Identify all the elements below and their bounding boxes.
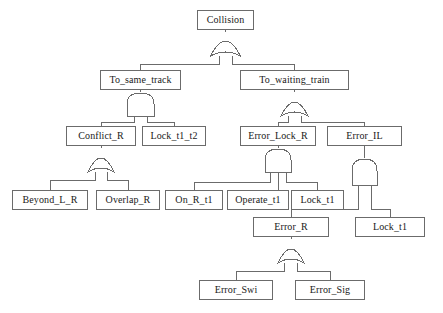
node-to-same-track[interactable]: To_same_track — [100, 70, 181, 90]
node-label: Error_R — [274, 222, 307, 232]
node-label: To_waiting_train — [259, 75, 329, 85]
node-label: Overlap_R — [106, 195, 151, 205]
node-label: To_same_track — [109, 75, 171, 85]
edge-error-r-to-error-swi — [236, 263, 284, 280]
node-lock-t1-a[interactable]: Lock_t1 — [291, 190, 344, 210]
node-label: Operate_t1 — [235, 195, 280, 205]
node-label: Collision — [207, 15, 245, 25]
node-lock-t1-t2[interactable]: Lock_t1_t2 — [142, 126, 206, 146]
edge-error-lock-r-to-on-r-t1 — [194, 172, 270, 190]
edge-conflict-r-to-beyond-l-r — [50, 172, 95, 190]
node-label: Error_Lock_R — [248, 131, 308, 141]
and-gate-error-il — [352, 159, 377, 185]
connector-layer — [0, 0, 443, 313]
node-label: Beyond_L_R — [23, 195, 78, 205]
node-on-r-t1[interactable]: On_R_t1 — [165, 190, 223, 210]
node-lock-t1-b[interactable]: Lock_t1 — [355, 217, 425, 237]
and-gate-same-track — [127, 93, 154, 116]
edge-error-il-to-lock-t1-b — [371, 185, 390, 217]
edge-error-lock-r-to-lock-t1-a — [286, 172, 317, 190]
edge-same-track-to-conflict-r — [101, 116, 134, 126]
node-beyond-l-r[interactable]: Beyond_L_R — [12, 190, 88, 210]
or-gate-conflict-r — [88, 158, 114, 172]
node-label: Conflict_R — [78, 131, 123, 141]
edge-same-track-to-lock-t1-t2 — [147, 116, 174, 126]
node-collision[interactable]: Collision — [197, 10, 254, 30]
node-conflict-r[interactable]: Conflict_R — [66, 126, 136, 146]
fault-tree-diagram: Collision To_same_track To_waiting_train… — [0, 0, 443, 313]
or-gate-waiting-train — [281, 102, 308, 116]
node-label: Error_IL — [346, 131, 382, 141]
edge-collision-to-waiting-train — [232, 56, 295, 70]
node-label: Lock_t1 — [373, 222, 407, 232]
node-error-il[interactable]: Error_IL — [327, 126, 402, 146]
edge-waiting-train-to-error-il — [301, 116, 365, 126]
and-gate-error-lock-r — [265, 149, 291, 172]
edge-conflict-r-to-overlap-r — [107, 172, 128, 190]
node-error-sig[interactable]: Error_Sig — [295, 280, 365, 300]
edge-waiting-train-to-error-lock-r — [278, 116, 288, 126]
node-error-swi[interactable]: Error_Swi — [199, 280, 273, 300]
node-label: Lock_t1_t2 — [150, 131, 197, 141]
edge-collision-to-same-track — [141, 56, 220, 70]
node-overlap-r[interactable]: Overlap_R — [96, 190, 160, 210]
edge-error-r-to-error-sig — [297, 263, 330, 280]
node-label: Error_Sig — [310, 285, 350, 295]
node-label: Error_Swi — [215, 285, 258, 295]
node-operate-t1[interactable]: Operate_t1 — [227, 190, 289, 210]
node-label: Lock_t1 — [300, 195, 334, 205]
node-label: On_R_t1 — [175, 195, 212, 205]
node-to-waiting-train[interactable]: To_waiting_train — [240, 70, 349, 90]
node-error-lock-r[interactable]: Error_Lock_R — [240, 126, 316, 146]
or-gate-error-r — [278, 249, 304, 263]
or-gate-collision — [211, 41, 241, 56]
node-error-r[interactable]: Error_R — [253, 217, 329, 237]
